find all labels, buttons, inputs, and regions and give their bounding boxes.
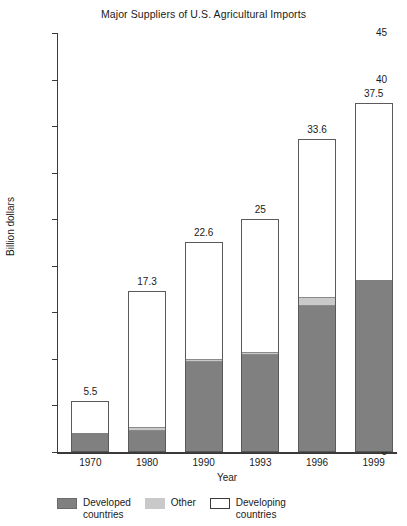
y-tick-mark [52, 33, 57, 34]
x-tick-label-1996: 1996 [287, 457, 347, 468]
bar-value-label-1993: 25 [255, 204, 266, 215]
bar-1996[interactable]: 33.6 [298, 139, 336, 452]
bar-1970[interactable]: 5.5 [71, 401, 109, 452]
segment-developed-1999 [356, 280, 392, 451]
y-tick-mark [52, 266, 57, 267]
x-tick-label-1980: 1980 [117, 457, 177, 468]
legend-swatch-developing-icon [210, 498, 230, 509]
segment-developed-1993 [242, 355, 278, 451]
segment-developed-1970 [72, 433, 108, 451]
segment-developed-1980 [129, 431, 165, 451]
y-tick-mark [52, 452, 57, 453]
y-tick-mark [52, 405, 57, 406]
chart-title: Major Suppliers of U.S. Agricultural Imp… [0, 8, 407, 20]
x-tick-label-1990: 1990 [174, 457, 234, 468]
bar-1993[interactable]: 25 [241, 219, 279, 452]
y-tick-label: 45 [361, 28, 387, 38]
y-tick-mark [52, 126, 57, 127]
segment-developing-1970 [72, 402, 108, 433]
bar-1980[interactable]: 17.3 [128, 291, 166, 452]
segment-developing-1999 [356, 104, 392, 280]
segment-developing-1993 [242, 220, 278, 352]
segment-developed-1996 [299, 306, 335, 451]
y-tick-label: 40 [361, 75, 387, 85]
legend-label-other: Other [171, 497, 196, 509]
segment-developing-1980 [129, 292, 165, 427]
y-axis-line [57, 33, 58, 452]
y-tick-mark [52, 80, 57, 81]
bar-value-label-1980: 17.3 [137, 276, 156, 287]
legend-label-developing: Developingcountries [236, 497, 286, 520]
bar-value-label-1970: 5.5 [83, 386, 97, 397]
chart-root: Major Suppliers of U.S. Agricultural Imp… [0, 0, 407, 526]
plot-area: 051015202530354045 5.517.322.62533.637.5… [57, 33, 397, 452]
legend-swatch-other-icon [145, 498, 165, 509]
segment-developing-1990 [186, 243, 222, 360]
x-tick-label-1970: 1970 [60, 457, 120, 468]
x-tick-label-1999: 1999 [344, 457, 404, 468]
bar-1990[interactable]: 22.6 [185, 242, 223, 452]
y-tick-mark [52, 312, 57, 313]
legend-item-developed[interactable]: Developedcountries [57, 497, 131, 520]
legend-item-developing[interactable]: Developingcountries [210, 497, 286, 520]
x-axis-label: Year [57, 472, 397, 483]
x-axis-line [57, 452, 397, 454]
y-axis-label-wrap: Billion dollars [2, 0, 18, 452]
y-tick-mark [52, 173, 57, 174]
segment-developing-1996 [299, 140, 335, 297]
y-tick-mark [52, 219, 57, 220]
legend-item-other[interactable]: Other [145, 497, 196, 509]
y-axis-label: Billion dollars [5, 197, 16, 256]
x-tick-label-1993: 1993 [230, 457, 290, 468]
segment-developed-1990 [186, 362, 222, 451]
legend-label-developed: Developedcountries [83, 497, 131, 520]
legend: Developedcountries Other Developingcount… [57, 497, 397, 520]
bar-1999[interactable]: 37.5 [355, 103, 393, 452]
segment-other-1996 [299, 297, 335, 305]
bar-value-label-1990: 22.6 [194, 227, 213, 238]
bar-value-label-1999: 37.5 [364, 88, 383, 99]
bar-value-label-1996: 33.6 [307, 124, 326, 135]
y-tick-mark [52, 359, 57, 360]
legend-swatch-developed-icon [57, 498, 77, 509]
